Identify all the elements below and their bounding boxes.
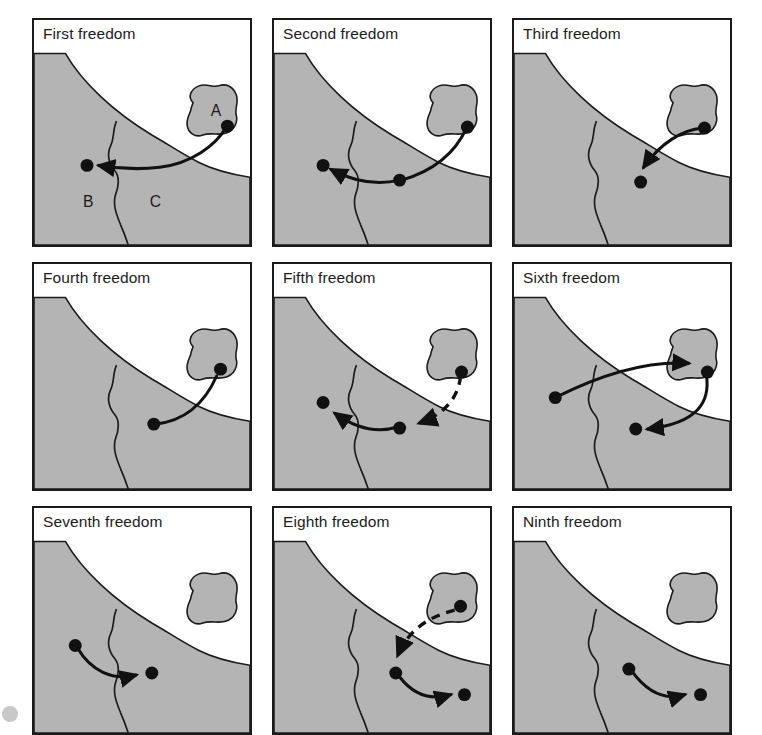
- airport-dot-c: [629, 423, 642, 436]
- panel-title-third-freedom: Third freedom: [523, 24, 621, 43]
- airport-dot-a: [221, 120, 234, 133]
- map-second-freedom: [274, 20, 490, 245]
- panel-title-fifth-freedom: Fifth freedom: [283, 268, 376, 287]
- airport-dot-a: [698, 122, 711, 135]
- label-country-a: A: [211, 102, 222, 119]
- panel-grid: A B C First freedom: [32, 18, 732, 694]
- airport-dot-c: [145, 667, 158, 680]
- label-country-b: B: [83, 193, 93, 210]
- airport-dot-b: [317, 396, 330, 409]
- panel-sixth-freedom: Sixth freedom: [512, 262, 732, 491]
- airport-dot-c: [147, 418, 160, 431]
- map-first-freedom: A B C: [34, 20, 250, 245]
- panel-title-second-freedom: Second freedom: [283, 24, 398, 43]
- panel-title-ninth-freedom: Ninth freedom: [523, 512, 622, 531]
- scan-artifact-mark: [2, 706, 18, 722]
- airport-dot-c: [393, 422, 406, 435]
- panel-first-freedom: A B C First freedom: [32, 18, 252, 247]
- map-eighth-freedom: [274, 508, 490, 733]
- panel-title-seventh-freedom: Seventh freedom: [43, 512, 163, 531]
- airport-dot-b: [317, 159, 330, 172]
- airport-dot-c1: [622, 663, 635, 676]
- label-country-c: C: [150, 193, 161, 210]
- map-ninth-freedom: [514, 508, 730, 733]
- airport-dot-b: [549, 391, 562, 404]
- airport-dot-c2: [694, 688, 707, 701]
- map-fifth-freedom: [274, 264, 490, 489]
- island-country-a: [187, 573, 237, 624]
- airport-dot-c1: [389, 667, 402, 680]
- airport-dot-a: [461, 121, 474, 134]
- panel-ninth-freedom: Ninth freedom: [512, 506, 732, 735]
- panel-third-freedom: Third freedom: [512, 18, 732, 247]
- panel-second-freedom: Second freedom: [272, 18, 492, 247]
- airport-dot-c: [393, 174, 406, 187]
- map-fourth-freedom: [34, 264, 250, 489]
- island-country-a: [187, 329, 237, 380]
- airport-dot-c2: [458, 688, 471, 701]
- map-third-freedom: [514, 20, 730, 245]
- airport-dot-c: [634, 176, 647, 189]
- panel-seventh-freedom: Seventh freedom: [32, 506, 252, 735]
- panel-fifth-freedom: Fifth freedom: [272, 262, 492, 491]
- panel-title-fourth-freedom: Fourth freedom: [43, 268, 150, 287]
- panel-eighth-freedom: Eighth freedom: [272, 506, 492, 735]
- airport-dot-b: [81, 159, 94, 172]
- airport-dot-a: [454, 600, 467, 613]
- map-sixth-freedom: [514, 264, 730, 489]
- map-seventh-freedom: [34, 508, 250, 733]
- airport-dot-a: [455, 366, 468, 379]
- airport-dot-a: [701, 366, 714, 379]
- panel-title-first-freedom: First freedom: [43, 24, 136, 43]
- island-country-a: [427, 329, 477, 380]
- panel-fourth-freedom: Fourth freedom: [32, 262, 252, 491]
- panel-title-eighth-freedom: Eighth freedom: [283, 512, 390, 531]
- panel-title-sixth-freedom: Sixth freedom: [523, 268, 620, 287]
- airport-dot-a: [214, 363, 227, 376]
- island-country-a: [667, 573, 717, 624]
- airport-dot-b: [69, 639, 82, 652]
